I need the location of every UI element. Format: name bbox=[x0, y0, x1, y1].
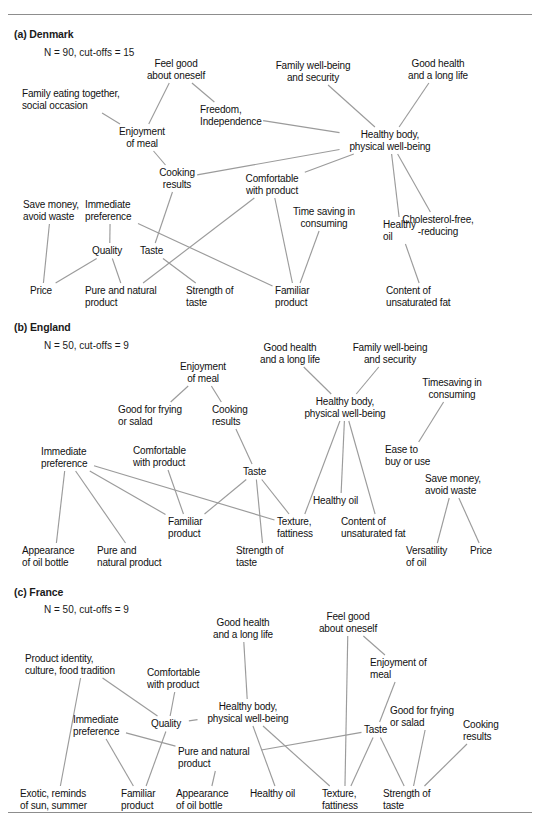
edge-quality-to-price bbox=[56, 259, 97, 284]
node-denmark-enjoyment: Enjoyment of meal bbox=[119, 126, 165, 149]
node-france-strength: Strength of taste bbox=[383, 788, 430, 811]
edge-timesaving-to-ease_buy bbox=[419, 402, 444, 442]
edge-taste-to-texture bbox=[351, 738, 373, 787]
node-denmark-strength: Strength of taste bbox=[186, 285, 233, 308]
edge-good_health-to-healthy_body bbox=[399, 83, 429, 127]
edge-family_eating-to-enjoyment bbox=[102, 113, 120, 124]
edge-immediate-to-pure_natural bbox=[76, 471, 126, 543]
node-denmark-family_eating: Family eating together, social occasion bbox=[22, 88, 120, 111]
edge-taste-to-strength bbox=[256, 480, 262, 544]
node-england-healthy_body: Healthy body, physical well-being bbox=[304, 396, 385, 419]
node-england-enjoyment: Enjoyment of meal bbox=[180, 361, 226, 384]
panel-subtitle-denmark: N = 90, cut-offs = 15 bbox=[44, 47, 134, 58]
node-france-good_frying: Good for frying or salad bbox=[390, 705, 454, 728]
edge-cooking-to-strength bbox=[424, 744, 467, 786]
panel-denmark: (a) DenmarkN = 90, cut-offs = 15Feel goo… bbox=[0, 20, 540, 315]
node-france-exotic: Exotic, reminds of sun, summer bbox=[20, 788, 87, 811]
edge-family_wb-to-healthy_body bbox=[356, 367, 379, 394]
node-france-enjoyment: Enjoyment of meal bbox=[370, 657, 427, 680]
node-england-comfortable: Comfortable with product bbox=[133, 445, 186, 468]
node-denmark-immediate: Immediate preference bbox=[85, 199, 131, 222]
edge-comfortable-to-familiar bbox=[275, 198, 293, 283]
node-denmark-familiar: Familiar product bbox=[275, 285, 309, 308]
node-england-taste: Taste bbox=[243, 466, 266, 478]
edge-taste-to-texture bbox=[262, 480, 289, 515]
edge-healthy_body-to-quality bbox=[189, 720, 198, 721]
node-france-comfortable: Comfortable with product bbox=[147, 667, 200, 690]
node-england-timesaving: Timesaving in consuming bbox=[422, 377, 481, 400]
edge-quality-to-familiar bbox=[146, 732, 166, 787]
node-denmark-pure_natural: Pure and natural product bbox=[85, 285, 157, 308]
node-england-ease_buy: Ease to buy or use bbox=[385, 444, 430, 467]
node-england-immediate: Immediate preference bbox=[41, 446, 87, 469]
edge-comfortable-to-pure_natural bbox=[143, 198, 254, 283]
node-france-appearance: Appearance of oil bottle bbox=[176, 788, 228, 811]
edge-comfortable-to-familiar bbox=[168, 470, 183, 514]
panel-france: (c) FranceN = 50, cut-offs = 9Good healt… bbox=[0, 580, 540, 812]
edge-comfortable-to-healthy_body bbox=[305, 154, 354, 172]
edge-enjoyment-to-cooking bbox=[211, 386, 221, 402]
node-france-immediate: Immediate preference bbox=[73, 714, 119, 737]
edge-good_frying-to-strength bbox=[414, 730, 426, 786]
node-england-strength: Strength of taste bbox=[236, 545, 283, 568]
edge-cooking-to-taste bbox=[236, 429, 252, 464]
edge-cooking-to-taste bbox=[155, 192, 172, 243]
edge-enjoyment-to-cooking bbox=[154, 151, 166, 165]
node-france-familiar: Familiar product bbox=[121, 788, 155, 811]
edge-save_money-to-versatility bbox=[437, 498, 449, 543]
panel-england: (b) EnglandN = 50, cut-offs = 9Good heal… bbox=[0, 315, 540, 580]
edge-pure_natural-to-appearance bbox=[212, 771, 215, 786]
node-denmark-healthy_body: Healthy body, physical well-being bbox=[349, 129, 430, 152]
edge-immediate-to-appearance bbox=[56, 471, 64, 543]
panel-title-england: (b) England bbox=[14, 321, 71, 333]
panel-title-denmark: (a) Denmark bbox=[14, 28, 74, 40]
node-denmark-time_saving: Time saving in consuming bbox=[293, 206, 355, 229]
edge-comfortable-to-quality bbox=[170, 692, 175, 716]
edge-time_saving-to-familiar bbox=[300, 231, 319, 283]
node-england-good_health: Good health and a long life bbox=[260, 342, 320, 365]
edge-feel_good-to-enjoyment bbox=[363, 636, 385, 655]
node-england-pure_natural: Pure and natural product bbox=[97, 545, 161, 568]
node-france-pure_natural: Pure and natural product bbox=[178, 746, 250, 769]
node-denmark-save_money: Save money, avoid waste bbox=[23, 199, 79, 222]
node-france-cooking: Cooking results bbox=[463, 719, 499, 742]
node-france-healthy_oil: Healthy oil bbox=[250, 788, 295, 800]
edge-healthy_body-to-healthy_oil bbox=[392, 154, 399, 217]
node-denmark-comfortable: Comfortable with product bbox=[246, 173, 299, 196]
edge-healthy_body-to-healthy_oil bbox=[341, 421, 344, 493]
edge-taste-to-strength bbox=[163, 259, 196, 284]
node-england-cooking: Cooking results bbox=[212, 404, 248, 427]
edge-taste-to-familiar bbox=[205, 480, 247, 515]
edge-quality-to-pure_natural bbox=[112, 259, 120, 284]
node-denmark-quality: Quality bbox=[92, 245, 122, 257]
panel-subtitle-france: N = 50, cut-offs = 9 bbox=[44, 604, 129, 615]
value-map-figure: (a) DenmarkN = 90, cut-offs = 15Feel goo… bbox=[0, 0, 540, 828]
node-england-good_frying: Good for frying or salad bbox=[118, 404, 182, 427]
edge-taste-to-strength bbox=[380, 738, 404, 787]
node-england-versatility: Versatility of oil bbox=[406, 545, 447, 568]
node-denmark-family_wb: Family well-being and security bbox=[276, 60, 351, 83]
node-denmark-freedom: Freedom, Independence bbox=[200, 104, 262, 127]
node-denmark-cholesterol: Cholesterol-free, -reducing bbox=[402, 214, 473, 237]
node-england-save_money: Save money, avoid waste bbox=[425, 473, 481, 496]
edge-healthy_body-to-healthy_oil bbox=[253, 726, 275, 786]
edge-good_health-to-healthy_body bbox=[244, 642, 247, 699]
edge-immediate-to-familiar bbox=[106, 739, 133, 786]
edge-freedom-to-healthy_body bbox=[263, 121, 339, 133]
panel-subtitle-england: N = 50, cut-offs = 9 bbox=[44, 340, 129, 351]
top-rule bbox=[8, 14, 532, 15]
node-france-product_id: Product identity, culture, food traditio… bbox=[25, 653, 115, 676]
edge-save_money-to-price bbox=[43, 224, 49, 283]
node-france-good_health: Good health and a long life bbox=[213, 617, 273, 640]
node-denmark-cooking: Cooking results bbox=[159, 167, 195, 190]
node-france-taste: Taste bbox=[364, 724, 387, 736]
edge-pure_natural-to-taste bbox=[261, 732, 361, 750]
edge-enjoyment-to-good_frying bbox=[171, 386, 189, 402]
node-france-healthy_body: Healthy body, physical well-being bbox=[207, 701, 288, 724]
edge-healthy_body-to-texture bbox=[263, 726, 330, 786]
edge-save_money-to-price bbox=[459, 498, 479, 543]
edge-immediate-to-pure_natural bbox=[126, 733, 176, 746]
node-france-texture: Texture, fattiness bbox=[322, 788, 358, 811]
node-england-healthy_oil: Healthy oil bbox=[313, 495, 358, 507]
edge-family_wb-to-healthy_body bbox=[328, 85, 375, 127]
